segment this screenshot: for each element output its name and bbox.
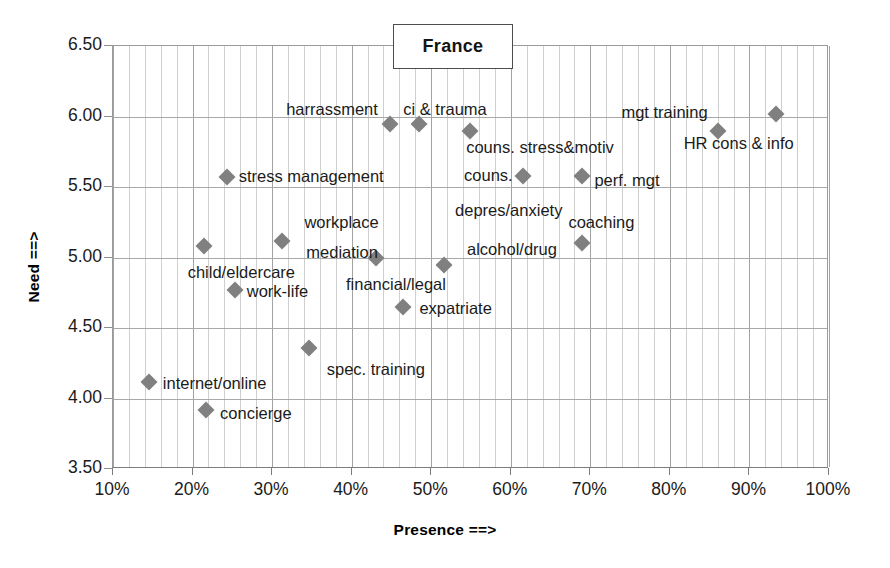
chart-title: France xyxy=(423,36,484,57)
x-axis-tick-label: 20% xyxy=(152,481,232,499)
x-axis-tick-label: 50% xyxy=(390,481,470,499)
x-axis-tick-label: 70% xyxy=(549,481,629,499)
x-axis-tick-label: 80% xyxy=(629,481,709,499)
x-axis-tick-label: 100% xyxy=(788,481,868,499)
y-axis-tick-mark xyxy=(104,468,112,469)
y-axis-tick-mark xyxy=(104,257,112,258)
x-axis-tick-label: 30% xyxy=(231,481,311,499)
x-axis-tick-label: 60% xyxy=(470,481,550,499)
chart-title-box: France xyxy=(393,24,513,69)
x-axis-tick-label: 40% xyxy=(311,481,391,499)
scatter-chart: 3.504.004.505.005.506.006.50 Need ==> ha… xyxy=(0,0,890,568)
y-axis-tick-mark xyxy=(104,45,112,46)
y-axis-tick-mark xyxy=(104,186,112,187)
x-axis-tick-labels: 10%20%30%40%50%60%70%80%90%100% xyxy=(0,481,890,507)
y-axis-tick-mark xyxy=(104,116,112,117)
x-axis-tick-label: 90% xyxy=(708,481,788,499)
y-axis-tick-mark xyxy=(104,327,112,328)
x-axis-tick-label: 10% xyxy=(72,481,152,499)
y-axis-tick-mark xyxy=(104,398,112,399)
x-axis-title: Presence ==> xyxy=(0,521,890,539)
